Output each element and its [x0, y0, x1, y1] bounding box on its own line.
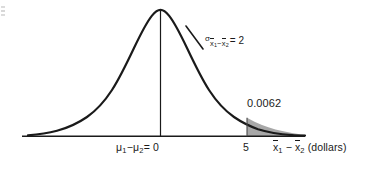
- axis-minus: −: [286, 141, 292, 153]
- x-axis-title: x1 − x2 (dollars): [273, 142, 347, 153]
- subscript-one: 1: [214, 42, 217, 48]
- tick-label-five: 5: [243, 142, 249, 153]
- sigma-annotation-label: σx1−x2= 2: [205, 36, 244, 46]
- overbar: [222, 38, 226, 39]
- mu-two-subscript: 2: [139, 146, 143, 155]
- mu-one-subscript: 1: [122, 146, 126, 155]
- sigma-equals-value: = 2: [230, 36, 244, 46]
- tail-probability-label: 0.0062: [247, 98, 281, 109]
- overbar: [295, 140, 300, 141]
- subscript-two: 2: [226, 42, 229, 48]
- axis-subscript-one: 1: [278, 146, 282, 155]
- axis-units: (dollars): [308, 141, 347, 153]
- overbar: [210, 38, 214, 39]
- sigma-subscript: x1−x2: [210, 40, 229, 48]
- mean-axis-label: μ1−μ2= 0: [116, 142, 159, 153]
- sigma-leader-line: [186, 26, 203, 49]
- axis-subscript-two: 2: [300, 146, 304, 155]
- overbar: [273, 140, 278, 141]
- mean-equals: = 0: [144, 141, 160, 153]
- normal-curve: [28, 10, 305, 136]
- normal-distribution-figure: σx1−x2= 2 0.0062 μ1−μ2= 0 5 x1 − x2 (dol…: [0, 0, 373, 172]
